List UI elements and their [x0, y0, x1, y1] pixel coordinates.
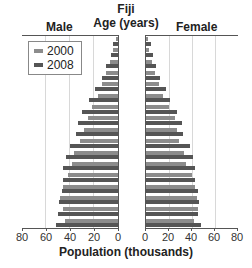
legend-swatch-2000 — [34, 49, 43, 53]
male-bar-2000-55-59 — [98, 94, 118, 98]
female-bar-2000-25-29 — [146, 162, 186, 166]
female-bar-2008-15-19 — [146, 189, 198, 193]
male-bar-2000-30-34 — [74, 151, 118, 155]
male-tick-label: 60 — [36, 231, 56, 243]
female-bar-2008-5-9 — [146, 212, 198, 216]
male-bar-2008-40-44 — [76, 132, 118, 136]
female-bar-2008-60-64 — [146, 87, 166, 91]
female-tick-label: 40 — [181, 231, 201, 243]
male-label: Male — [46, 20, 73, 34]
female-bar-2000-55-59 — [146, 94, 163, 98]
female-bar-2000-45-49 — [146, 116, 175, 120]
female-bar-2008-0-4 — [146, 223, 201, 227]
chart-title: Fiji — [0, 2, 252, 16]
female-bar-2000-0-4 — [146, 219, 194, 223]
female-bar-2008-55-59 — [146, 98, 170, 102]
male-bar-2008-55-59 — [89, 98, 118, 102]
male-bar-2000-65-69 — [106, 71, 118, 75]
male-bar-2008-25-29 — [63, 166, 118, 170]
female-bar-2008-50-54 — [146, 110, 177, 114]
male-tick-label: 20 — [84, 231, 104, 243]
female-bar-2008-25-29 — [146, 166, 195, 170]
male-bar-2000-80+ — [116, 37, 118, 41]
female-bar-2000-65-69 — [146, 71, 155, 75]
female-bar-2000-50-54 — [146, 105, 169, 109]
legend-item-2008: 2008 — [34, 58, 74, 72]
male-bar-2000-60-64 — [102, 82, 118, 86]
female-bar-2000-80+ — [146, 37, 148, 41]
female-label: Female — [176, 20, 217, 34]
male-bar-2008-75-79 — [111, 53, 118, 57]
female-bar-2000-5-9 — [146, 207, 198, 211]
female-bar-2008-35-39 — [146, 144, 190, 148]
male-bar-2000-15-19 — [63, 185, 118, 189]
male-bar-2000-5-9 — [63, 207, 118, 211]
male-tick-label: 40 — [60, 231, 80, 243]
male-tick-label: 0 — [108, 231, 128, 243]
male-bar-2008-60-64 — [95, 87, 118, 91]
female-bar-2008-45-49 — [146, 121, 182, 125]
male-bar-2008-80+ — [113, 42, 118, 46]
female-bar-2000-10-14 — [146, 196, 197, 200]
legend-item-2000: 2000 — [34, 44, 74, 58]
male-bar-2000-75-79 — [113, 48, 118, 52]
male-bar-2008-10-14 — [59, 200, 118, 204]
male-bar-2008-5-9 — [58, 212, 118, 216]
male-bar-2008-70-74 — [106, 64, 118, 68]
male-bar-2000-10-14 — [60, 196, 118, 200]
male-bar-2008-35-39 — [70, 144, 118, 148]
male-bar-2000-25-29 — [72, 162, 118, 166]
female-tick-label: 60 — [204, 231, 224, 243]
female-bar-2000-60-64 — [146, 82, 159, 86]
male-bar-2008-50-54 — [82, 110, 118, 114]
male-tick-label: 80 — [12, 231, 32, 243]
male-bar-2008-20-24 — [63, 178, 118, 182]
female-bar-2000-75-79 — [146, 48, 149, 52]
legend-swatch-2008 — [34, 63, 43, 67]
male-bar-2008-15-19 — [62, 189, 118, 193]
male-bar-2008-65-69 — [102, 76, 118, 80]
female-bar-2008-75-79 — [146, 53, 153, 57]
female-bar-2000-20-24 — [146, 173, 192, 177]
male-bar-2000-70-74 — [110, 60, 118, 64]
male-bar-2000-40-44 — [84, 128, 118, 132]
female-bar-2000-35-39 — [146, 139, 179, 143]
female-bar-2008-80+ — [146, 42, 151, 46]
male-bar-2000-50-54 — [92, 105, 118, 109]
legend: 2000 2008 — [28, 41, 82, 75]
male-bar-2000-20-24 — [68, 173, 118, 177]
x-axis-title: Population (thousands) — [0, 245, 252, 259]
female-bar-2008-10-14 — [146, 200, 199, 204]
male-bar-2000-45-49 — [88, 116, 118, 120]
female-bar-2008-20-24 — [146, 178, 195, 182]
gridline — [215, 36, 216, 229]
female-bar-2008-65-69 — [146, 76, 160, 80]
female-tick-label: 20 — [158, 231, 178, 243]
male-bar-2000-0-4 — [65, 219, 118, 223]
female-tick-label: 80 — [227, 231, 247, 243]
female-bar-2000-70-74 — [146, 60, 152, 64]
female-bar-2008-40-44 — [146, 132, 183, 136]
female-bar-2008-30-34 — [146, 155, 193, 159]
male-bar-2008-0-4 — [56, 223, 118, 227]
female-bar-2000-40-44 — [146, 128, 177, 132]
legend-label-2000: 2000 — [47, 44, 74, 58]
female-bar-2008-70-74 — [146, 64, 156, 68]
female-bar-2000-15-19 — [146, 185, 195, 189]
legend-label-2008: 2008 — [47, 58, 74, 72]
female-bar-2000-30-34 — [146, 151, 184, 155]
male-bar-2000-35-39 — [80, 139, 118, 143]
female-tick-label: 0 — [135, 231, 155, 243]
female-panel — [145, 35, 238, 229]
male-bar-2008-30-34 — [66, 155, 118, 159]
male-bar-2008-45-49 — [78, 121, 118, 125]
